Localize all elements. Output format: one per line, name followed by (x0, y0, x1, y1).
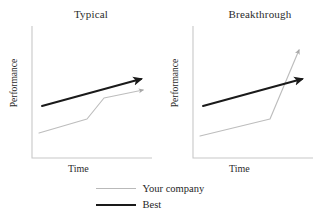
chart-legend: Your company Best (0, 182, 317, 211)
chart-panel-breakthrough: Breakthrough Performance Time (159, 0, 317, 180)
series-line-your-company-typical (39, 90, 143, 133)
plot-area-breakthrough (159, 0, 317, 180)
plot-area-typical (0, 0, 158, 180)
legend-swatch-line-icon (96, 204, 136, 206)
legend-item-your-company: Your company (96, 182, 222, 195)
series-line-best-typical (42, 79, 141, 106)
figure-root: Typical Performance Time Breakthrough Pe… (0, 0, 317, 218)
legend-label-best: Best (143, 198, 162, 211)
chart-panel-typical: Typical Performance Time (0, 0, 158, 180)
legend-swatch-line-icon (96, 188, 136, 189)
legend-item-best: Best (96, 198, 222, 211)
legend-label-your-company: Your company (143, 182, 205, 195)
series-line-best-breakthrough (203, 79, 302, 106)
